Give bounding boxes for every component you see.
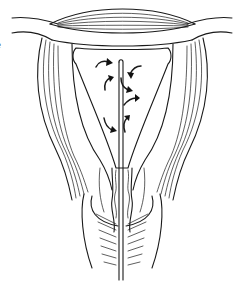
arrow-icon: [124, 94, 140, 105]
arrow-icon: [124, 115, 130, 132]
uterus-diagram: [0, 0, 245, 284]
fundus-myometrium: [50, 9, 195, 46]
fallopian-tube-right: [187, 17, 232, 40]
vagina: [82, 194, 162, 268]
uterine-cavity: [73, 48, 171, 168]
arrow-icon: [104, 118, 117, 133]
arrow-icon: [96, 58, 113, 67]
catheter: [119, 60, 123, 280]
fallopian-tube-left: [12, 17, 58, 40]
arrow-icon: [105, 75, 114, 90]
uterine-wall-right: [133, 38, 207, 200]
arrow-icon: [127, 66, 141, 79]
